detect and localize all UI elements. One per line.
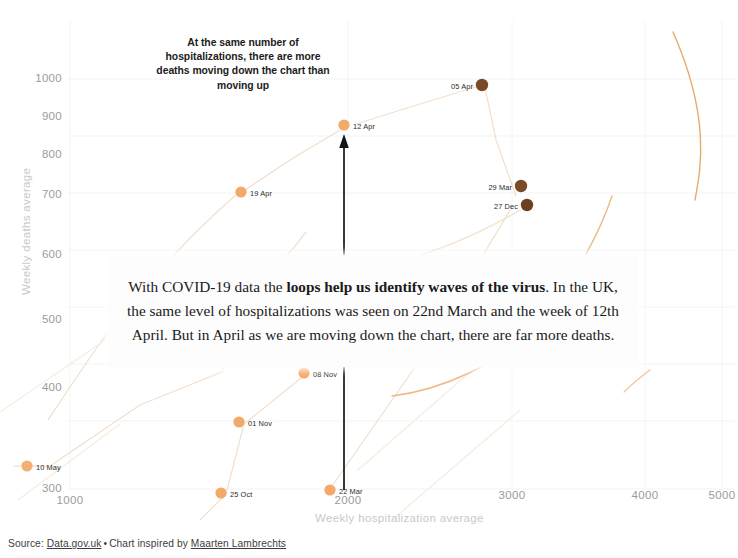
footer-separator: • — [101, 538, 109, 549]
data-point-05-apr — [476, 79, 488, 91]
point-label-08-nov: 08 Nov — [313, 370, 337, 379]
callout-text: With COVID-19 data the loops help us ide… — [108, 275, 638, 347]
data-point-10-may — [21, 460, 32, 471]
footer-credit-prefix: Chart inspired by — [109, 538, 188, 549]
y-tick-400: 400 — [18, 381, 62, 393]
accent-curve-right — [673, 32, 701, 200]
headline-annotation: At the same number of hospitalizations, … — [152, 36, 334, 93]
point-label-29-mar: 29 Mar — [452, 183, 512, 192]
footer-source-label: Source: — [8, 538, 44, 549]
y-tick-500: 500 — [18, 313, 62, 325]
point-label-01-nov: 01 Nov — [248, 419, 272, 428]
footer-source-link[interactable]: Data.gov.uk — [47, 538, 102, 549]
callout-text-part1: With COVID-19 data the — [128, 278, 286, 295]
point-label-10-may: 10 May — [36, 463, 61, 472]
x-axis-title: Weekly hospitalization average — [315, 512, 484, 524]
accent-curve-fragment — [624, 370, 650, 392]
y-tick-800: 800 — [18, 148, 62, 160]
data-point-29-mar — [515, 180, 527, 192]
point-label-25-oct: 25 Oct — [230, 490, 252, 499]
data-point-19-apr — [235, 186, 246, 197]
data-point-27-dec — [521, 199, 533, 211]
point-label-12-apr: 12 Apr — [353, 122, 375, 131]
data-point-12-apr — [338, 119, 349, 130]
point-label-05-apr: 05 Apr — [413, 82, 473, 91]
footer-source-line: Source: Data.gov.uk•Chart inspired by Ma… — [8, 538, 286, 549]
callout-box: With COVID-19 data the loops help us ide… — [108, 255, 638, 367]
point-label-27-dec: 27 Dec — [458, 202, 518, 211]
point-label-19-apr: 19 Apr — [250, 189, 272, 198]
x-tick-1000: 1000 — [44, 494, 96, 506]
chart-screenshot: 1000 900 800 700 600 500 400 300 1000 20… — [0, 0, 738, 558]
data-point-08-nov — [298, 367, 309, 378]
y-tick-300: 300 — [18, 482, 62, 494]
y-axis-title: Weekly deaths average — [20, 168, 32, 295]
data-point-01-nov — [233, 416, 244, 427]
point-label-22-mar: 22 Mar — [339, 487, 363, 496]
x-tick-5000: 5000 — [696, 489, 738, 501]
x-tick-3000: 3000 — [486, 489, 538, 501]
x-tick-4000: 4000 — [619, 489, 671, 501]
y-tick-1000: 1000 — [18, 72, 62, 84]
callout-text-bold: loops help us identify waves of the viru… — [286, 278, 545, 295]
data-point-25-oct — [215, 487, 226, 498]
y-tick-900: 900 — [18, 110, 62, 122]
footer-credit-link[interactable]: Maarten Lambrechts — [191, 538, 286, 549]
